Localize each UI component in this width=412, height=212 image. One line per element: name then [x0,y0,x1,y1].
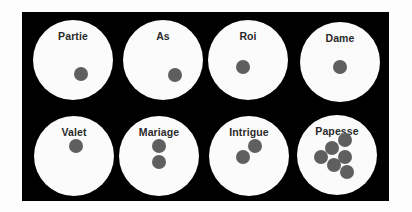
dot-marker [248,139,262,153]
dot-marker [327,158,341,172]
dot-marker [340,165,354,179]
dot-marker [168,68,182,82]
dot-marker [333,60,347,74]
disc-label: Intrigue [209,126,289,138]
dot-marker [152,155,166,169]
disc-as: As [123,20,203,100]
disc-label: Dame [300,32,380,44]
dot-marker [314,150,328,164]
dot-marker [74,67,88,81]
disc-label: Papesse [297,125,377,137]
dot-marker [69,139,83,153]
disc-partie: Partie [33,20,113,100]
dot-marker [338,133,352,147]
dot-marker [152,139,166,153]
disc-label: Mariage [119,126,199,138]
disc-label: As [123,30,203,42]
disc-valet: Valet [34,116,114,196]
disc-label: Valet [34,126,114,138]
disc-label: Roi [208,30,288,42]
dot-marker [236,150,250,164]
disc-papesse: Papesse [297,115,377,195]
disc-label: Partie [33,30,113,42]
disc-roi: Roi [208,20,288,100]
dot-marker [236,60,250,74]
